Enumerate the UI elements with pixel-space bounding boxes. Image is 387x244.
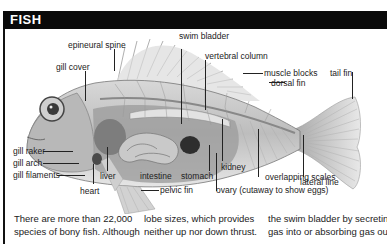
label-gill-arch: gill arch [13, 158, 42, 168]
label-gill-filaments: gill filaments [13, 170, 60, 180]
leader-stomach [209, 145, 210, 171]
label-overlapping-scales: overlapping scales [265, 172, 335, 182]
body-col2-line1: lobe sizes, which provides [144, 212, 259, 225]
leader-vertebral-column [205, 60, 206, 110]
leader-gill-filaments [57, 175, 85, 176]
ovary-shape [180, 136, 200, 154]
label-liver: liver [100, 171, 116, 181]
label-swim-bladder: swim bladder [179, 31, 229, 41]
leader-swim-bladder [181, 49, 182, 124]
leader-liver [107, 147, 108, 171]
leader-heart [93, 164, 94, 184]
leader-epineural-spine [114, 49, 115, 71]
body-column-2: lobe sizes, which provides neither up no… [144, 212, 259, 238]
label-tail-fin: tail fin [330, 68, 352, 78]
body-col2-line2: neither up nor down thrust. [144, 225, 259, 238]
label-pelvic-fin: pelvic fin [160, 185, 193, 195]
label-gill-cover: gill cover [56, 62, 90, 72]
leader-lateral-line [303, 135, 304, 177]
label-kidney: kidney [221, 162, 246, 172]
body-column-1: There are more than 22,000 species of bo… [14, 212, 129, 238]
label-epineural-spine: epineural spine [68, 40, 126, 50]
body-col3-line1: the swim bladder by secreting [268, 212, 383, 225]
leader-overlapping-scales [258, 129, 259, 177]
leader-gill-cover [85, 71, 86, 101]
fish-anatomy-figure: swim bladder epineural spine vertebral c… [5, 29, 387, 214]
leader-muscle-blocks [243, 73, 263, 74]
label-stomach: stomach [181, 171, 213, 181]
label-gill-raker: gill raker [13, 146, 45, 156]
section-header: FISH [3, 11, 387, 29]
label-dorsal-fin: dorsal fin [271, 78, 306, 88]
body-col1-line2: species of bony fish. Although [14, 225, 129, 238]
label-ovary: ovary (cutaway to show eggs) [216, 185, 328, 195]
leader-kidney [222, 119, 223, 161]
label-intestine: intestine [140, 171, 172, 181]
label-muscle-blocks: muscle blocks [264, 68, 317, 78]
leader-gill-arch [43, 163, 79, 164]
body-col3-line2: gas into or absorbing gas out [268, 225, 383, 238]
label-vertebral-column: vertebral column [205, 51, 268, 61]
leader-gill-raker [43, 151, 73, 152]
body-column-3: the swim bladder by secreting gas into o… [268, 212, 383, 238]
label-heart: heart [80, 186, 99, 196]
page: FISH [0, 0, 387, 244]
leader-pelvic-fin [141, 190, 159, 191]
section-title: FISH [10, 12, 42, 27]
body-col1-line1: There are more than 22,000 [14, 212, 129, 225]
